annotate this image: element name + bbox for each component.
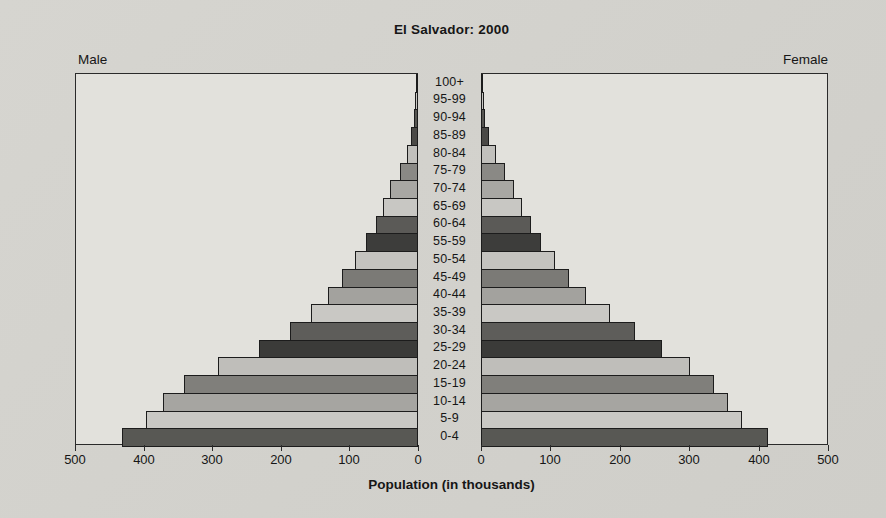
bar-female-45-49 [481,269,569,288]
age-label-85-89: 85-89 [418,126,481,144]
tick-label-female-400: 400 [737,452,781,467]
age-label-70-74: 70-74 [418,179,481,197]
age-label-80-84: 80-84 [418,144,481,162]
age-label-60-64: 60-64 [418,215,481,232]
bar-male-85-89 [411,127,418,146]
age-label-35-39: 35-39 [418,303,481,321]
age-label-90-94: 90-94 [418,108,481,126]
age-group-label-column: 100+95-9990-9485-8980-8475-7970-7465-696… [418,73,481,445]
bar-female-0-4 [481,428,768,447]
tick-mark-male-300 [212,445,213,451]
bar-female-50-54 [481,251,555,270]
bar-male-80-84 [407,145,418,164]
age-label-45-49: 45-49 [418,268,481,286]
age-label-5-9: 5-9 [418,410,481,427]
bar-male-55-59 [366,233,418,252]
scanned-page-background: El Salvador: 2000 Male Female 100+95-999… [0,0,886,518]
bar-female-90-94 [481,109,485,128]
bar-male-70-74 [390,180,418,199]
bar-female-30-34 [481,322,635,341]
bar-female-80-84 [481,145,496,164]
bar-male-45-49 [342,269,418,288]
age-label-0-4: 0-4 [418,427,481,445]
age-label-20-24: 20-24 [418,356,481,374]
tick-label-female-0: 0 [459,452,503,467]
bar-male-30-34 [290,322,418,341]
bar-female-35-39 [481,304,610,323]
bar-male-75-79 [400,163,418,181]
bar-male-35-39 [311,304,418,323]
bar-male-50-54 [355,251,418,270]
tick-label-male-300: 300 [190,452,234,467]
tick-mark-male-100 [349,445,350,451]
age-label-15-19: 15-19 [418,374,481,392]
chart-title: El Salvador: 2000 [75,22,828,37]
bar-male-10-14 [163,393,418,412]
age-label-10-14: 10-14 [418,392,481,410]
tick-mark-female-0 [481,445,482,451]
tick-mark-female-300 [689,445,690,451]
bar-female-95-99 [481,92,484,110]
tick-mark-male-200 [281,445,282,451]
bar-male-25-29 [259,340,418,358]
tick-mark-male-400 [144,445,145,451]
tick-mark-female-100 [550,445,551,451]
male-plot-area [75,73,418,445]
age-label-30-34: 30-34 [418,321,481,339]
bar-male-15-19 [184,375,418,394]
tick-mark-female-500 [828,445,829,451]
bar-female-15-19 [481,375,714,394]
bar-female-60-64 [481,216,531,234]
age-label-95-99: 95-99 [418,91,481,108]
bar-female-10-14 [481,393,728,412]
bar-female-100+ [481,74,483,93]
bar-male-40-44 [328,287,418,305]
bar-female-75-79 [481,163,505,181]
bar-male-65-69 [383,198,418,217]
tick-label-female-200: 200 [598,452,642,467]
tick-mark-female-200 [620,445,621,451]
bar-male-5-9 [146,411,418,429]
age-label-55-59: 55-59 [418,232,481,250]
female-plot-area [481,73,828,445]
tick-label-female-500: 500 [806,452,850,467]
tick-label-male-400: 400 [122,452,166,467]
bar-male-0-4 [122,428,418,447]
bar-male-20-24 [218,357,418,376]
bar-female-20-24 [481,357,690,376]
tick-label-female-300: 300 [667,452,711,467]
bar-female-55-59 [481,233,541,252]
tick-label-male-0: 0 [396,452,440,467]
male-axis-header: Male [78,52,107,67]
bar-female-25-29 [481,340,662,358]
tick-mark-female-400 [759,445,760,451]
tick-label-male-100: 100 [327,452,371,467]
tick-mark-male-500 [75,445,76,451]
tick-label-male-200: 200 [259,452,303,467]
age-label-50-54: 50-54 [418,250,481,268]
bar-female-5-9 [481,411,742,429]
age-label-40-44: 40-44 [418,286,481,303]
bar-female-40-44 [481,287,586,305]
female-axis-header: Female [783,52,828,67]
x-axis-title: Population (in thousands) [75,477,828,492]
bar-female-85-89 [481,127,489,146]
age-label-25-29: 25-29 [418,339,481,356]
bar-female-70-74 [481,180,514,199]
age-label-100+: 100+ [418,73,481,91]
bar-male-60-64 [376,216,418,234]
tick-label-male-500: 500 [53,452,97,467]
age-label-65-69: 65-69 [418,197,481,215]
age-label-75-79: 75-79 [418,162,481,179]
tick-mark-male-0 [418,445,419,451]
bar-female-65-69 [481,198,522,217]
tick-label-female-100: 100 [528,452,572,467]
